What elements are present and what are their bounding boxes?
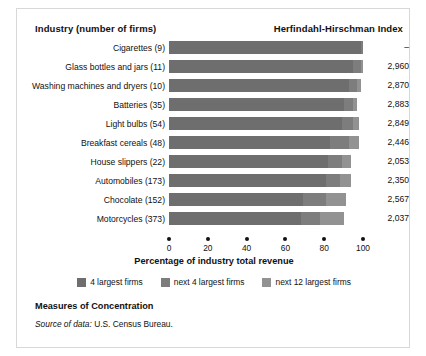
bar-segment: [361, 60, 363, 73]
legend-label: next 4 largest firms: [174, 277, 245, 287]
legend-label: 4 largest firms: [90, 277, 143, 287]
hhi-value: 2,960: [369, 61, 409, 71]
industry-label: Breakfast cereals (48): [17, 137, 165, 150]
bar-segment: [303, 193, 326, 206]
legend-swatch: [161, 278, 170, 287]
axis-tick-dot: [167, 237, 171, 241]
column-header-industry: Industry (number of firms): [35, 23, 156, 34]
figure-source: Source of data: U.S. Census Bureau.: [35, 319, 173, 329]
stacked-bar: [169, 155, 363, 168]
stacked-bar: [169, 79, 363, 92]
industry-label: Automobiles (173): [17, 175, 165, 188]
bar-segment: [326, 174, 340, 187]
chart-row: Cigarettes (9)–: [17, 39, 411, 58]
hhi-value: 2,870: [369, 80, 409, 90]
axis-tick-dot: [245, 237, 249, 241]
legend-swatch: [262, 278, 271, 287]
bar-segment: [169, 212, 301, 225]
axis-tick-dot: [361, 237, 365, 241]
stacked-bar: [169, 212, 363, 225]
x-axis: Percentage of industry total revenue 020…: [17, 231, 411, 265]
axis-tick-label: 20: [196, 243, 220, 253]
figure-title: Measures of Concentration: [35, 301, 153, 311]
chart-row: Light bulbs (54)2,849: [17, 115, 411, 134]
hhi-value: 2,053: [369, 156, 409, 166]
hhi-value: 2,446: [369, 137, 409, 147]
bar-segment: [357, 79, 361, 92]
bar-segment: [301, 212, 320, 225]
axis-tick-dot: [322, 237, 326, 241]
chart-row: Motorcycles (373)2,037: [17, 210, 411, 229]
bar-segment: [169, 41, 361, 54]
source-prefix: Source of data:: [35, 319, 92, 329]
bar-segment: [353, 60, 361, 73]
legend-item: next 12 largest firms: [262, 277, 350, 287]
column-header-hhi: Herfindahl-Hirschman Index: [274, 23, 403, 34]
bar-segment: [169, 155, 328, 168]
chart-row: Breakfast cereals (48)2,446: [17, 134, 411, 153]
bar-segment: [342, 155, 352, 168]
axis-tick-label: 100: [351, 243, 375, 253]
chart-panel: Industry (number of firms) Herfindahl-Hi…: [16, 8, 410, 348]
hhi-value: 2,567: [369, 194, 409, 204]
bar-segment: [320, 212, 343, 225]
axis-tick-label: 40: [235, 243, 259, 253]
bar-segment: [353, 98, 357, 111]
stacked-bar: [169, 136, 363, 149]
chart-row: Automobiles (173)2,350: [17, 172, 411, 191]
stacked-bar: [169, 98, 363, 111]
axis-tick-label: 0: [157, 243, 181, 253]
bar-segment: [340, 174, 352, 187]
hhi-value: 2,037: [369, 213, 409, 223]
bar-segment: [169, 60, 353, 73]
stacked-bar: [169, 193, 363, 206]
chart-row: Batteries (35)2,883: [17, 96, 411, 115]
stacked-bar: [169, 60, 363, 73]
bar-segment: [344, 98, 354, 111]
axis-tick-label: 80: [312, 243, 336, 253]
industry-label: Cigarettes (9): [17, 42, 165, 55]
hhi-value: 2,849: [369, 118, 409, 128]
chart-row: Glass bottles and jars (11)2,960: [17, 58, 411, 77]
industry-label: House slippers (22): [17, 156, 165, 169]
chart-legend: 4 largest firmsnext 4 largest firmsnext …: [17, 277, 411, 287]
industry-label: Washing machines and dryers (10): [17, 80, 165, 93]
bar-segment: [328, 155, 342, 168]
bar-segment: [326, 193, 345, 206]
stacked-bar: [169, 117, 363, 130]
bar-segment: [342, 117, 354, 130]
industry-label: Chocolate (152): [17, 194, 165, 207]
chart-plot-area: Cigarettes (9)–Glass bottles and jars (1…: [17, 39, 411, 229]
hhi-value: 2,350: [369, 175, 409, 185]
chart-row: Chocolate (152)2,567: [17, 191, 411, 210]
axis-tick-label: 60: [273, 243, 297, 253]
bar-segment: [361, 41, 363, 54]
bar-segment: [169, 136, 330, 149]
bar-segment: [349, 79, 357, 92]
stacked-bar: [169, 174, 363, 187]
chart-row: Washing machines and dryers (10)2,870: [17, 77, 411, 96]
source-value: U.S. Census Bureau.: [94, 319, 173, 329]
bar-segment: [169, 117, 342, 130]
x-axis-title: Percentage of industry total revenue: [17, 256, 411, 266]
industry-label: Motorcycles (373): [17, 213, 165, 226]
legend-item: next 4 largest firms: [161, 277, 245, 287]
axis-tick-dot: [206, 237, 210, 241]
bar-segment: [353, 117, 359, 130]
legend-swatch: [77, 278, 86, 287]
industry-label: Batteries (35): [17, 99, 165, 112]
bar-segment: [330, 136, 349, 149]
hhi-value: 2,883: [369, 99, 409, 109]
hhi-value: –: [369, 42, 409, 52]
bar-segment: [169, 98, 344, 111]
bar-segment: [169, 79, 349, 92]
stacked-bar: [169, 41, 363, 54]
legend-label: next 12 largest firms: [275, 277, 350, 287]
bar-segment: [169, 174, 326, 187]
chart-row: House slippers (22)2,053: [17, 153, 411, 172]
legend-item: 4 largest firms: [77, 277, 143, 287]
industry-label: Glass bottles and jars (11): [17, 61, 165, 74]
industry-label: Light bulbs (54): [17, 118, 165, 131]
bar-segment: [349, 136, 359, 149]
bar-segment: [169, 193, 303, 206]
